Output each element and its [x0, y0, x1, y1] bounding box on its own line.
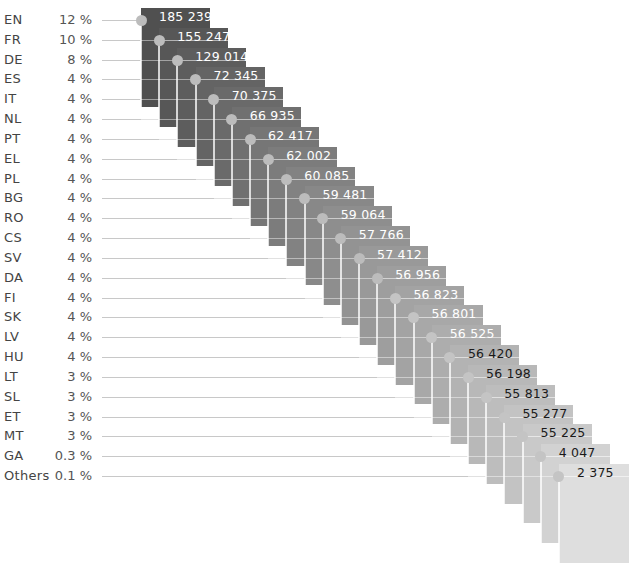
share-percent: 8 %: [0, 50, 92, 70]
count-value: 4 047: [559, 446, 596, 460]
row-marker-dot: [481, 392, 492, 403]
share-percent: 4 %: [0, 149, 92, 169]
box-edge-line: [140, 20, 142, 107]
count-value: 62 417: [268, 129, 313, 143]
row-marker-dot: [372, 273, 383, 284]
count-value: 2 375: [577, 466, 614, 480]
row-line-through-boxes: [286, 278, 377, 279]
share-percent: 0.1 %: [0, 466, 92, 486]
box-edge-line: [503, 417, 505, 504]
row-line-through-boxes: [232, 218, 323, 219]
count-value: 129 014: [195, 50, 248, 64]
share-percent: 10 %: [0, 30, 92, 50]
box-edge-line: [158, 40, 160, 127]
box-edge-line: [176, 60, 178, 147]
share-percent: 4 %: [0, 109, 92, 129]
row-line-through-boxes: [141, 79, 196, 80]
share-percent: 4 %: [0, 248, 92, 268]
share-percent: 3 %: [0, 367, 92, 387]
count-value: 57 412: [377, 248, 422, 262]
row-line-through-boxes: [159, 139, 250, 140]
row-line-through-boxes: [323, 317, 414, 318]
share-percent: 4 %: [0, 268, 92, 288]
row-line-through-boxes: [177, 159, 268, 160]
row-marker-dot: [354, 253, 365, 264]
share-percent: 4 %: [0, 228, 92, 248]
row-marker-dot: [281, 174, 292, 185]
share-percent: 4 %: [0, 188, 92, 208]
box-edge-line: [231, 119, 233, 206]
row-marker-dot: [136, 15, 147, 26]
share-percent: 12 %: [0, 10, 92, 30]
row-line-through-boxes: [450, 456, 541, 457]
row-marker-dot: [463, 372, 474, 383]
row-line-through-boxes: [414, 417, 505, 418]
count-value: 185 239: [159, 10, 212, 24]
count-value: 72 345: [214, 69, 259, 83]
share-percent: 0.3 %: [0, 446, 92, 466]
count-value: 59 064: [341, 208, 386, 222]
count-value: 56 823: [413, 288, 458, 302]
count-value: 56 956: [395, 268, 440, 282]
share-percent: 3 %: [0, 426, 92, 446]
row-line-through-boxes: [395, 397, 486, 398]
row-marker-dot: [172, 55, 183, 66]
box-edge-line: [449, 357, 451, 444]
row-marker-dot: [390, 293, 401, 304]
row-line-through-boxes: [305, 298, 396, 299]
share-percent: 4 %: [0, 307, 92, 327]
row-line-through-boxes: [196, 179, 287, 180]
box-edge-line: [249, 139, 251, 226]
row-marker-dot: [263, 154, 274, 165]
row-line-through-boxes: [432, 436, 523, 437]
count-value: 55 225: [541, 426, 586, 440]
share-percent: 4 %: [0, 129, 92, 149]
share-percent: 4 %: [0, 288, 92, 308]
share-percent: 4 %: [0, 89, 92, 109]
count-value: 62 002: [286, 149, 331, 163]
share-percent: 4 %: [0, 208, 92, 228]
count-value: 56 801: [432, 307, 477, 321]
box-edge-line: [558, 476, 560, 563]
box-edge-line: [267, 159, 269, 246]
box-edge-line: [413, 317, 415, 404]
box-edge-line: [522, 436, 524, 523]
count-value: 56 420: [468, 347, 513, 361]
row-line-through-boxes: [214, 198, 305, 199]
share-percent: 4 %: [0, 347, 92, 367]
count-value: 59 481: [323, 188, 368, 202]
count-value: 70 375: [232, 89, 277, 103]
share-percent: 3 %: [0, 407, 92, 427]
box-edge-line: [540, 456, 542, 543]
count-value: 55 813: [504, 387, 549, 401]
box-edge-line: [285, 179, 287, 266]
box-edge-line: [322, 218, 324, 305]
share-percent: 4 %: [0, 169, 92, 189]
box-edge-line: [195, 79, 197, 166]
box-edge-line: [304, 198, 306, 285]
row-marker-dot: [154, 35, 165, 46]
share-percent: 4 %: [0, 327, 92, 347]
box-edge-line: [467, 377, 469, 464]
box-edge-line: [340, 238, 342, 325]
row-line-through-boxes: [377, 377, 468, 378]
count-value: 66 935: [250, 109, 295, 123]
box-edge-line: [358, 258, 360, 345]
count-value: 56 525: [450, 327, 495, 341]
share-percent: 3 %: [0, 387, 92, 407]
box-edge-line: [431, 337, 433, 424]
row-line-through-boxes: [141, 99, 214, 100]
row-line-through-boxes: [468, 476, 559, 477]
box-edge-line: [213, 99, 215, 186]
row-line-through-boxes: [341, 337, 432, 338]
row-line-through-boxes: [359, 357, 450, 358]
box-edge-line: [394, 298, 396, 385]
count-value: 60 085: [304, 169, 349, 183]
count-value: 155 247: [177, 30, 230, 44]
share-percent: 4 %: [0, 69, 92, 89]
row-marker-dot: [245, 134, 256, 145]
row-marker-dot: [499, 412, 510, 423]
count-value: 56 198: [486, 367, 531, 381]
box-edge-line: [376, 278, 378, 365]
